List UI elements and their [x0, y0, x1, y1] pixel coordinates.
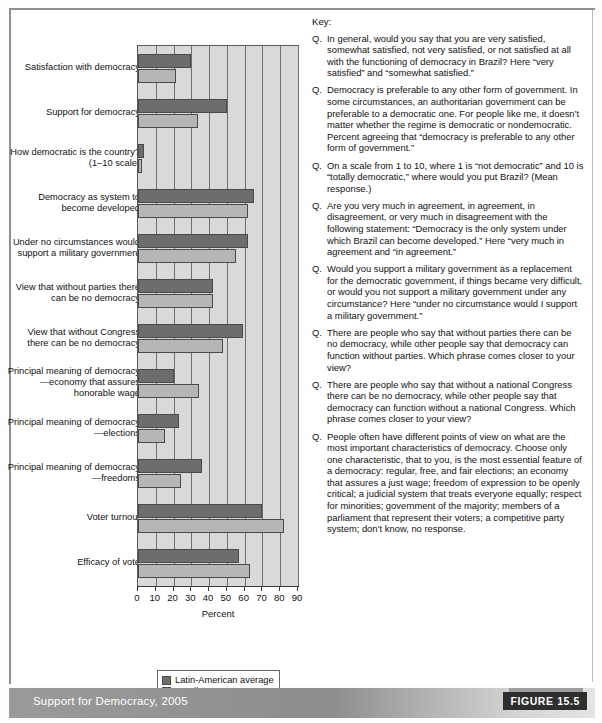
bar-brazil — [138, 114, 198, 128]
plot-area — [137, 45, 299, 587]
key-item-marker: Q. — [312, 263, 327, 321]
key-panel: Key: Q.In general, would you say that yo… — [312, 16, 584, 540]
bar-brazil — [138, 474, 181, 488]
key-item-text: Democracy is preferable to any other for… — [327, 84, 584, 154]
key-item: Q.There are people who say that without … — [312, 327, 584, 373]
bar-latin-american-average — [138, 99, 227, 113]
key-item-text: People often have different points of vi… — [327, 431, 584, 535]
x-axis-tick-label: 90 — [287, 592, 307, 603]
key-item: Q.On a scale from 1 to 10, where 1 is “n… — [312, 160, 584, 195]
bar-latin-american-average — [138, 144, 144, 158]
x-axis-title: Percent — [137, 608, 299, 619]
gridline — [280, 46, 281, 586]
gridline — [262, 46, 263, 586]
category-label: Voter turnout — [5, 512, 140, 523]
bar-brazil — [138, 429, 165, 443]
bar-brazil — [138, 294, 213, 308]
bar-latin-american-average — [138, 54, 191, 68]
key-item-text: Would you support a military government … — [327, 263, 584, 321]
column-divider — [592, 10, 593, 682]
key-item-list: Q.In general, would you say that you are… — [312, 33, 584, 535]
key-item-marker: Q. — [312, 84, 327, 154]
bar-brazil — [138, 384, 199, 398]
bar-latin-american-average — [138, 504, 262, 518]
plot-area-wrapper: Satisfaction with democracySupport for d… — [10, 30, 302, 590]
bar-brazil — [138, 159, 142, 173]
bar-latin-american-average — [138, 549, 239, 563]
x-axis-tick — [297, 586, 298, 591]
legend-label-latin-american-average: Latin-American average — [175, 675, 274, 685]
x-axis-line — [137, 586, 299, 587]
bar-latin-american-average — [138, 459, 202, 473]
category-label: Efficacy of vote — [5, 557, 140, 568]
x-axis-tick — [261, 586, 262, 591]
x-axis-tick — [279, 586, 280, 591]
key-item: Q.There are people who say that without … — [312, 379, 584, 425]
figure-footer-bar: Support for Democracy, 2005 FIGURE 15.5 — [9, 688, 595, 718]
bar-latin-american-average — [138, 414, 179, 428]
gridline — [298, 46, 299, 586]
bar-latin-american-average — [138, 189, 254, 203]
key-item-text: Are you very much in agreement, in agree… — [327, 200, 584, 258]
key-item-text: In general, would you say that you are v… — [327, 33, 584, 79]
category-label: View that without parties there can be n… — [5, 282, 140, 304]
category-label: Satisfaction with democracy — [5, 62, 140, 73]
bar-brazil — [138, 519, 284, 533]
bar-latin-american-average — [138, 324, 243, 338]
category-label: Under no circumstances would support a m… — [5, 237, 140, 259]
key-item-text: There are people who say that without a … — [327, 379, 584, 425]
x-axis-tick — [190, 586, 191, 591]
category-label: Support for democracy — [5, 107, 140, 118]
bar-latin-american-average — [138, 369, 174, 383]
bar-brazil — [138, 339, 223, 353]
x-axis-tick — [173, 586, 174, 591]
category-label: Principal meaning of democracy—economy t… — [5, 366, 140, 400]
x-axis-tick — [155, 586, 156, 591]
legend-swatch-latin-american-average — [162, 676, 171, 685]
key-item-marker: Q. — [312, 431, 327, 535]
key-item-marker: Q. — [312, 327, 327, 373]
category-label: Democracy as system to become developed — [5, 192, 140, 214]
key-item: Q.Are you very much in agreement, in agr… — [312, 200, 584, 258]
category-label: How democratic is the country? (1–10 sca… — [5, 147, 140, 169]
key-item-text: There are people who say that without pa… — [327, 327, 584, 373]
x-axis-tick — [208, 586, 209, 591]
key-item: Q.Would you support a military governmen… — [312, 263, 584, 321]
bar-brazil — [138, 249, 236, 263]
key-item-text: On a scale from 1 to 10, where 1 is “not… — [327, 160, 584, 195]
bar-brazil — [138, 69, 176, 83]
bar-chart: Satisfaction with democracySupport for d… — [10, 30, 302, 630]
key-item: Q.In general, would you say that you are… — [312, 33, 584, 79]
legend-item: Latin-American average — [162, 675, 274, 685]
bar-brazil — [138, 564, 250, 578]
key-item-marker: Q. — [312, 160, 327, 195]
category-label: Principal meaning of democracy—elections — [5, 417, 140, 439]
x-axis-tick — [226, 586, 227, 591]
bar-latin-american-average — [138, 279, 213, 293]
x-axis-tick — [244, 586, 245, 591]
bar-latin-american-average — [138, 234, 248, 248]
x-axis-tick — [137, 586, 138, 591]
key-item-marker: Q. — [312, 379, 327, 425]
category-label: Principal meaning of democracy—freedoms — [5, 462, 140, 484]
figure-caption: Support for Democracy, 2005 — [33, 695, 188, 707]
figure-number-badge: FIGURE 15.5 — [503, 692, 587, 710]
key-item-marker: Q. — [312, 33, 327, 79]
key-item-marker: Q. — [312, 200, 327, 258]
category-label: View that without Congress there can be … — [5, 327, 140, 349]
key-item: Q.People often have different points of … — [312, 431, 584, 535]
bar-brazil — [138, 204, 248, 218]
figure-page: Satisfaction with democracySupport for d… — [0, 0, 602, 723]
key-title: Key: — [312, 16, 584, 28]
key-item: Q.Democracy is preferable to any other f… — [312, 84, 584, 154]
